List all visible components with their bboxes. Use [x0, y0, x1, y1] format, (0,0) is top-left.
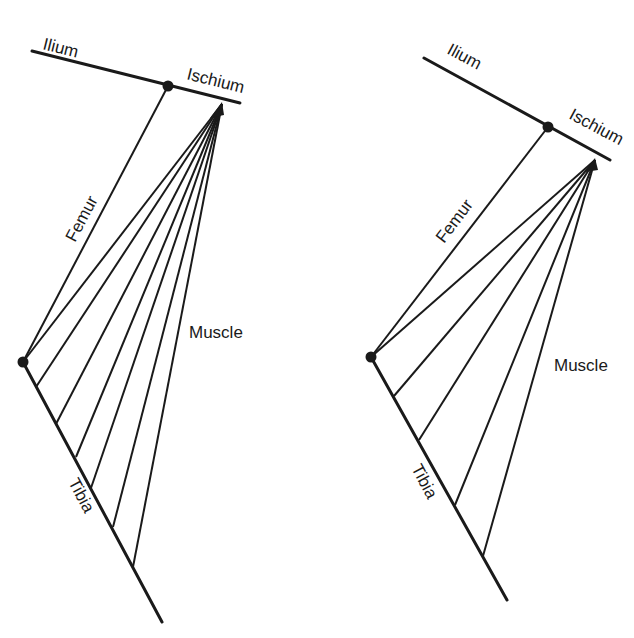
muscle-label: Muscle — [189, 323, 243, 342]
hip-joint — [543, 122, 554, 133]
muscle-label: Muscle — [554, 356, 608, 375]
femur-label: Femur — [62, 192, 102, 245]
left-diagram: Ilium Ischium Femur Muscle Tibia — [18, 34, 247, 622]
femur-label: Femur — [432, 195, 477, 246]
muscle-fiber — [371, 160, 595, 357]
knee-joint — [366, 352, 377, 363]
muscle-fiber — [56, 104, 222, 424]
hip-joint — [163, 81, 174, 92]
tibia-label: Tibia — [407, 461, 441, 502]
muscle-fiber — [455, 160, 595, 505]
muscle-fiber — [419, 160, 595, 440]
ilium-label: Ilium — [444, 40, 485, 74]
muscle-fiber — [113, 104, 222, 527]
tibia-bone — [23, 362, 162, 622]
right-diagram: Ilium Ischium Femur Muscle Tibia — [366, 40, 627, 600]
ilium-label: Ilium — [41, 34, 80, 61]
knee-joint — [18, 357, 29, 368]
muscle-fiber — [76, 104, 222, 457]
muscle-origin — [585, 158, 598, 172]
tibia-bone — [371, 357, 507, 600]
femur-bone — [371, 127, 548, 357]
muscle-origin — [210, 102, 224, 118]
muscle-fiber — [91, 104, 222, 488]
hip-knee-diagram-canvas: Ilium Ischium Femur Muscle Tibia Ilium I… — [0, 0, 634, 638]
femur-bone — [23, 86, 168, 362]
